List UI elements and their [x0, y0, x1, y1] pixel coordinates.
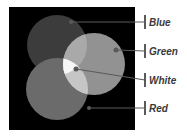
blue-marker-dot: [69, 20, 73, 24]
white-marker-dot: [74, 67, 79, 72]
label-green: Green: [149, 46, 178, 57]
red-marker-dot: [87, 106, 91, 110]
label-red: Red: [149, 103, 169, 114]
green-tick-bar: [144, 44, 146, 58]
blue-tick-bar: [144, 15, 146, 29]
color-mixing-diagram: Blue Green White Red: [0, 0, 187, 137]
label-white: White: [149, 75, 177, 86]
red-tick-bar: [144, 101, 146, 115]
white-tick-bar: [144, 73, 146, 87]
label-blue: Blue: [149, 17, 171, 28]
green-marker-dot: [114, 48, 119, 53]
